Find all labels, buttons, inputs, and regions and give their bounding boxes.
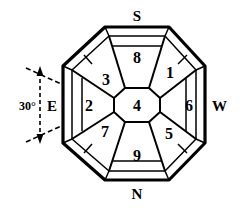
- region-label-9: 9: [133, 147, 141, 164]
- region-label-4: 4: [133, 97, 141, 114]
- region-label-1: 1: [166, 64, 174, 81]
- region-label-3: 3: [102, 71, 110, 88]
- compass-label-south: S: [133, 8, 141, 24]
- region-label-2: 2: [85, 97, 93, 114]
- region-label-5: 5: [165, 125, 173, 142]
- arrowhead-down-icon: [37, 134, 44, 144]
- arrowhead-up-icon: [37, 66, 44, 76]
- compass-label-east: E: [47, 98, 57, 114]
- compass-label-west: W: [212, 98, 227, 114]
- angle-value-label: 30°: [19, 99, 36, 113]
- region-label-7: 7: [101, 123, 109, 140]
- figure-container: 1 2 3 4 5 6 7 8 9 S N E W 30°: [0, 0, 241, 208]
- octagon-diagram: 1 2 3 4 5 6 7 8 9 S N E W 30°: [0, 0, 241, 208]
- region-label-8: 8: [133, 49, 141, 66]
- compass-label-north: N: [132, 186, 143, 202]
- region-label-6: 6: [185, 97, 193, 114]
